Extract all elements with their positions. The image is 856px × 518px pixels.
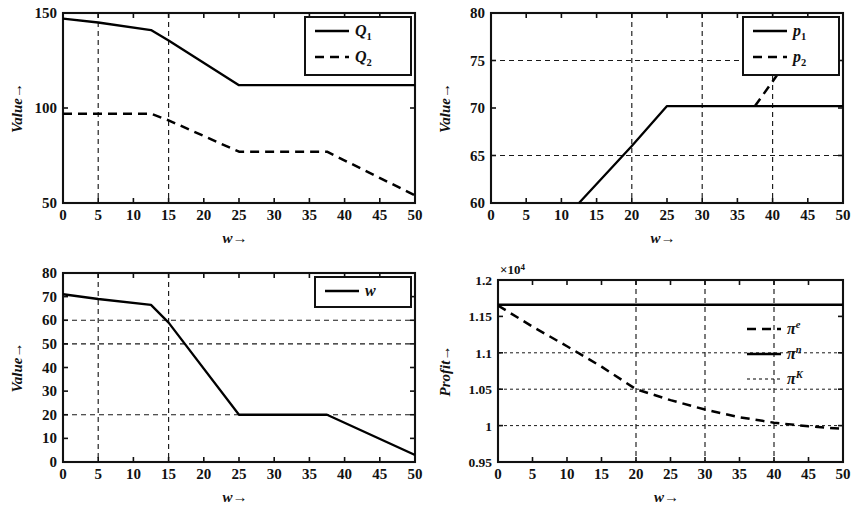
x-tick-label: 0 [494,466,502,482]
x-tick-label: 35 [730,207,745,223]
x-axis-title: w→ [222,489,247,505]
y-tick-label: 150 [35,5,58,21]
x-tick-label: 0 [487,207,495,223]
x-tick-label: 25 [232,207,247,223]
x-tick-label: 45 [801,466,816,482]
legend-label: πn [787,344,802,362]
legend-label: w [365,282,376,299]
x-tick-label: 15 [161,466,176,482]
y-axis-exponent-power: 4 [520,262,525,272]
x-tick-label: 10 [554,207,569,223]
x-tick-label: 20 [196,466,211,482]
x-tick-label: 20 [629,466,644,482]
x-tick-label: 0 [59,466,67,482]
series-line-p1 [579,106,843,203]
plot-area-0: 0510152025303540455050100150w→Value→Q1Q2 [9,5,423,246]
y-axis-title: Value→ [9,342,25,392]
chart-svg-top-right: 051015202530354045506065707580w→Value→p1… [428,0,856,259]
y-tick-label: 0.95 [468,455,492,470]
y-tick-label: 10 [42,430,57,446]
y-tick-label: 1.05 [468,382,492,397]
x-axis-title: w→ [654,489,679,505]
legend-label: πK [787,369,804,387]
chart-svg-bottom-left: 0510152025303540455001020304050607080w→V… [0,258,428,517]
legend-label: πe [787,319,801,337]
series-group [63,294,415,455]
chart-panel-top-right: 051015202530354045506065707580w→Value→p1… [428,0,856,259]
x-tick-label: 25 [660,207,675,223]
x-tick-label: 10 [126,207,141,223]
x-tick-label: 10 [126,466,141,482]
x-tick-label: 40 [337,207,352,223]
y-tick-label: 1.2 [475,273,492,288]
legend-label-subscript: 1 [367,31,372,42]
x-tick-label: 15 [594,466,609,482]
legend-box [743,17,839,75]
legend-label-superscript: e [796,319,801,330]
x-tick-label: 30 [267,207,282,223]
x-tick-label: 25 [232,466,247,482]
x-tick-label: 35 [302,466,317,482]
x-tick-label: 5 [94,466,102,482]
x-tick-label: 45 [372,207,387,223]
y-tick-label: 100 [35,100,58,116]
series-line-w [63,294,415,455]
x-tick-label: 50 [836,466,851,482]
x-tick-label: 20 [196,207,211,223]
y-tick-label: 1 [485,419,492,434]
y-tick-label: 65 [470,148,485,164]
legend-1[interactable]: p1p2 [743,17,839,75]
chart-svg-bottom-right: 051015202530354045500.9511.051.11.151.2w… [428,258,856,517]
legend-3[interactable]: πeπnπK [747,319,804,387]
y-tick-label: 60 [470,195,485,211]
four-panel-figure: 0510152025303540455050100150w→Value→Q1Q2… [0,0,856,518]
legend-label-superscript: K [795,369,804,380]
x-tick-label: 0 [59,207,67,223]
legend-label-subscript: 2 [367,57,372,68]
y-tick-label: 40 [42,360,57,376]
y-tick-label: 70 [42,289,57,305]
y-tick-label: 0 [50,454,58,470]
x-tick-label: 45 [800,207,815,223]
y-axis-exponent: ×104 [500,262,525,277]
x-tick-label: 50 [408,207,423,223]
x-tick-label: 20 [624,207,639,223]
x-tick-label: 45 [372,466,387,482]
legend-0[interactable]: Q1Q2 [305,17,411,75]
x-tick-label: 5 [94,207,102,223]
y-axis-title: Value→ [9,83,25,133]
legend-label-subscript: 1 [801,31,806,42]
y-tick-label: 1.15 [468,309,492,324]
chart-panel-bottom-right: 051015202530354045500.9511.051.11.151.2w… [428,258,856,517]
y-tick-label: 80 [42,265,57,281]
x-tick-label: 15 [161,207,176,223]
plot-area-1: 051015202530354045506065707580w→Value→p1… [437,5,851,246]
y-tick-label: 60 [42,312,57,328]
x-tick-label: 35 [732,466,747,482]
legend-label-subscript: 2 [801,57,806,68]
chart-panel-bottom-left: 0510152025303540455001020304050607080w→V… [0,258,428,517]
y-tick-label: 50 [42,336,57,352]
x-tick-label: 10 [560,466,575,482]
chart-svg-top-left: 0510152025303540455050100150w→Value→Q1Q2 [0,0,428,259]
y-tick-label: 1.1 [475,346,492,361]
y-axis-title: Value→ [437,83,453,133]
x-tick-label: 35 [302,207,317,223]
legend-2[interactable]: w [315,277,411,307]
x-tick-label: 50 [836,207,851,223]
x-tick-label: 50 [408,466,423,482]
series-line-Q2 [63,114,415,196]
y-tick-label: 20 [42,407,57,423]
series-group [579,57,843,203]
y-tick-label: 50 [42,195,57,211]
x-axis-title: w→ [222,230,247,246]
x-tick-label: 40 [337,466,352,482]
chart-panel-top-left: 0510152025303540455050100150w→Value→Q1Q2 [0,0,428,259]
x-tick-label: 25 [663,466,678,482]
x-axis-title: w→ [650,230,675,246]
x-tick-label: 40 [767,466,782,482]
y-tick-label: 30 [42,383,57,399]
x-tick-label: 5 [522,207,530,223]
x-tick-label: 30 [267,466,282,482]
x-tick-label: 30 [698,466,713,482]
